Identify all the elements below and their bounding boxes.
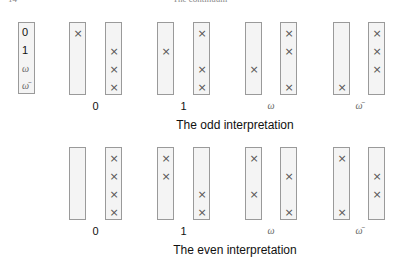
row-1-omega-right-column: ×× — [280, 147, 297, 220]
cross-mark-icon: × — [197, 83, 207, 93]
row-1-zero-left-column — [69, 147, 86, 220]
row-0-one-left-column: × — [157, 22, 174, 95]
row-0-omega-left-column: × — [245, 22, 262, 95]
cross-mark-icon: × — [372, 190, 382, 200]
row-0-group-label-omega: ω — [267, 100, 274, 111]
cross-mark-icon: × — [372, 65, 382, 75]
cross-mark-icon: × — [197, 208, 207, 218]
row-0-omega-bar-right-column: ××× — [368, 22, 385, 95]
cross-mark-icon: × — [337, 154, 347, 164]
row-1-zero-right-column: ×××× — [105, 147, 122, 220]
cross-mark-icon: × — [161, 154, 171, 164]
row-0-omega-right-column: ××× — [280, 22, 297, 95]
cross-mark-icon: × — [337, 83, 347, 93]
row-0-caption: The odd interpretation — [176, 118, 293, 132]
cross-mark-icon: × — [197, 29, 207, 39]
cross-mark-icon: × — [284, 208, 294, 218]
page-number: 14 — [8, 0, 17, 4]
legend-item-omega: ω — [22, 63, 33, 74]
row-1-group-label-omega: ω — [267, 225, 274, 236]
cross-mark-icon: × — [337, 208, 347, 218]
cross-mark-icon: × — [109, 83, 119, 93]
cross-mark-icon: × — [249, 190, 259, 200]
row-0-zero-right-column: ××× — [105, 22, 122, 95]
legend-item-0: 0 — [22, 27, 33, 38]
cross-mark-icon: × — [109, 154, 119, 164]
cross-mark-icon: × — [73, 29, 83, 39]
cross-mark-icon: × — [109, 208, 119, 218]
row-0-zero-left-column: × — [69, 22, 86, 95]
row-0-group-label-zero: 0 — [92, 100, 98, 112]
cross-mark-icon: × — [284, 47, 294, 57]
row-0-one-right-column: ××× — [193, 22, 210, 95]
row-1-caption: The even interpretation — [173, 243, 296, 257]
cross-mark-icon: × — [249, 154, 259, 164]
cross-mark-icon: × — [249, 65, 259, 75]
row-1-one-right-column: ×× — [193, 147, 210, 220]
legend-item-1: 1 — [22, 45, 33, 56]
cross-mark-icon: × — [109, 47, 119, 57]
page-header: 14 The continuum — [0, 0, 398, 4]
row-1-one-left-column: ×× — [157, 147, 174, 220]
cross-mark-icon: × — [284, 83, 294, 93]
running-title: The continuum — [173, 0, 228, 4]
row-0-group-label-one: 1 — [180, 100, 186, 112]
cross-mark-icon: × — [197, 65, 207, 75]
cross-mark-icon: × — [372, 29, 382, 39]
cross-mark-icon: × — [109, 65, 119, 75]
row-1-omega-bar-left-column: ×× — [333, 147, 350, 220]
cross-mark-icon: × — [197, 190, 207, 200]
cross-mark-icon: × — [161, 47, 171, 57]
row-0-omega-bar-left-column: × — [333, 22, 350, 95]
row-1-group-label-zero: 0 — [92, 225, 98, 237]
legend-item-omega-bar: ω̄ — [22, 80, 33, 91]
row-1-group-label-omega-bar: ω̄ — [355, 225, 362, 236]
cross-mark-icon: × — [372, 47, 382, 57]
row-1-omega-bar-right-column: ×× — [368, 147, 385, 220]
row-1-group-label-one: 1 — [180, 225, 186, 237]
cross-mark-icon: × — [109, 190, 119, 200]
row-0-group-label-omega-bar: ω̄ — [355, 100, 362, 111]
cross-mark-icon: × — [284, 29, 294, 39]
row-1-omega-left-column: ×× — [245, 147, 262, 220]
cross-mark-icon: × — [372, 172, 382, 182]
cross-mark-icon: × — [284, 172, 294, 182]
cross-mark-icon: × — [161, 172, 171, 182]
cross-mark-icon: × — [109, 172, 119, 182]
legend-box: 0 1 ω ω̄ — [18, 22, 35, 94]
